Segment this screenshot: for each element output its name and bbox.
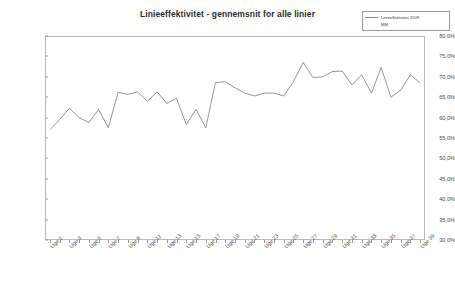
x-axis-tick-mark xyxy=(410,240,411,243)
y-axis-tick-label: 50,0% xyxy=(415,155,455,161)
y-axis-tick-mark xyxy=(45,56,48,57)
legend-item-series-2: MM xyxy=(365,21,447,28)
x-axis-tick-mark xyxy=(196,240,197,243)
chart-legend: Linieeffektivitet 2009 MM xyxy=(362,11,450,31)
y-axis-tick-label: 75,0% xyxy=(415,53,455,59)
y-axis-tick-label: 35,0% xyxy=(415,217,455,223)
legend-blank-swatch xyxy=(365,24,378,25)
x-axis-tick-mark xyxy=(254,240,255,243)
x-axis-tick-mark xyxy=(118,240,119,243)
x-axis-tick-mark xyxy=(138,240,139,243)
y-axis-tick-mark xyxy=(45,178,48,179)
y-axis-tick-mark xyxy=(45,97,48,98)
x-axis-tick-mark xyxy=(313,240,314,243)
y-axis-tick-mark xyxy=(45,158,48,159)
x-axis-tick-mark xyxy=(274,240,275,243)
y-axis-tick-mark xyxy=(45,219,48,220)
y-axis-tick-label: 65,0% xyxy=(415,94,455,100)
x-axis-tick-mark xyxy=(391,240,392,243)
x-axis-tick-mark xyxy=(177,240,178,243)
y-axis-tick-label: 40,0% xyxy=(415,196,455,202)
y-axis-tick-mark xyxy=(45,199,48,200)
x-axis-tick-mark xyxy=(79,240,80,243)
legend-item-label: Linieeffektivitet 2009 xyxy=(381,14,419,21)
x-axis-tick-mark xyxy=(332,240,333,243)
y-axis-tick-label: 60,0% xyxy=(415,115,455,121)
legend-line-swatch xyxy=(365,17,378,18)
x-axis-tick-mark xyxy=(99,240,100,243)
y-axis-tick-label: 55,0% xyxy=(415,135,455,141)
legend-item-series-1: Linieeffektivitet 2009 xyxy=(365,14,447,21)
y-axis-tick-label: 45,0% xyxy=(415,176,455,182)
x-axis-tick-mark xyxy=(216,240,217,243)
x-axis-tick-mark xyxy=(60,240,61,243)
y-axis-tick-label: 80,0% xyxy=(415,33,455,39)
y-axis-tick-mark xyxy=(45,76,48,77)
plot-area xyxy=(45,36,425,240)
x-axis-tick-mark xyxy=(352,240,353,243)
y-axis-tick-mark xyxy=(45,138,48,139)
y-axis-tick-mark xyxy=(45,117,48,118)
y-axis-tick-mark xyxy=(45,240,48,241)
x-axis-tick-mark xyxy=(157,240,158,243)
y-axis-tick-label: 70,0% xyxy=(415,74,455,80)
x-axis-tick-mark xyxy=(293,240,294,243)
x-axis-tick-mark xyxy=(235,240,236,243)
y-axis-tick-mark xyxy=(45,36,48,37)
x-axis-tick-mark xyxy=(371,240,372,243)
legend-item-label: MM xyxy=(381,21,388,28)
chart-container: Linieeffektivitet - gennemsnit for alle … xyxy=(0,0,455,287)
